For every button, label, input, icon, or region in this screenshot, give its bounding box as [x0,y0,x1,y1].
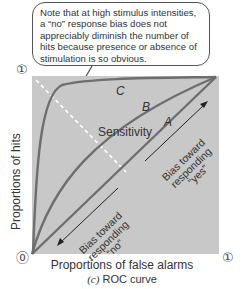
y-axis-label: Proportions of hits [9,133,23,230]
y-max-label: ① [16,63,28,76]
figure-caption: (c) ROC curve [0,273,244,285]
label-sensitivity: Sensitivity [98,125,152,139]
label-curve-c: C [116,84,125,98]
label-curve-a: A [164,115,172,129]
label-curve-b: B [142,100,150,114]
x-axis-label: Proportions of false alarms [0,258,244,272]
